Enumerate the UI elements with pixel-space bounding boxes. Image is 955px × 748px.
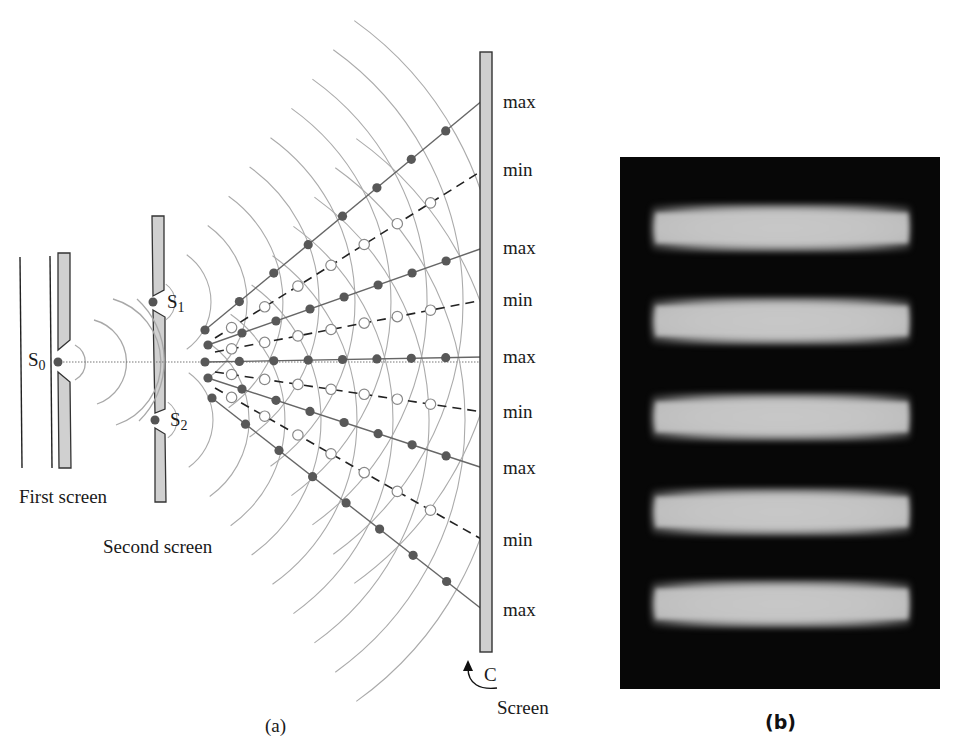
label-screen-c: C bbox=[484, 665, 497, 684]
bright-fringe-core bbox=[656, 589, 908, 619]
bright-fringe-core bbox=[656, 306, 908, 336]
double-slit-diagram: S0 S1 S2 First screen Second screen C Sc… bbox=[0, 0, 600, 748]
marker-max: max bbox=[503, 458, 536, 477]
source-s2-dot bbox=[151, 416, 160, 425]
intersection-dots bbox=[200, 126, 451, 586]
label-s1: S1 bbox=[167, 292, 185, 315]
label-screen: Screen bbox=[497, 698, 549, 717]
label-s0: S0 bbox=[28, 350, 46, 373]
label-second-screen: Second screen bbox=[103, 537, 212, 556]
fringe-photograph bbox=[620, 157, 940, 689]
marker-max: max bbox=[503, 600, 536, 619]
marker-max: max bbox=[503, 347, 536, 366]
interference-diagram-svg bbox=[0, 0, 600, 748]
marker-min: min bbox=[503, 160, 533, 179]
label-first-screen: First screen bbox=[19, 487, 107, 506]
source-s1-dot bbox=[149, 298, 158, 307]
bright-fringe-core bbox=[656, 402, 908, 432]
marker-min: min bbox=[503, 290, 533, 309]
bright-fringe-core bbox=[656, 497, 908, 527]
marker-max: max bbox=[503, 238, 536, 257]
antinodal-lines bbox=[205, 100, 483, 610]
bright-fringe-core bbox=[656, 213, 908, 243]
marker-min: min bbox=[503, 402, 533, 421]
observation-screen bbox=[480, 52, 492, 652]
interference-wavefronts bbox=[166, 21, 501, 702]
marker-min: min bbox=[503, 530, 533, 549]
source-s0-dot bbox=[54, 358, 63, 367]
label-s2: S2 bbox=[170, 410, 188, 433]
arrowhead-icon bbox=[463, 660, 473, 671]
caption-a: (a) bbox=[265, 715, 286, 737]
caption-b: (b) bbox=[765, 711, 796, 733]
marker-max: max bbox=[503, 92, 536, 111]
